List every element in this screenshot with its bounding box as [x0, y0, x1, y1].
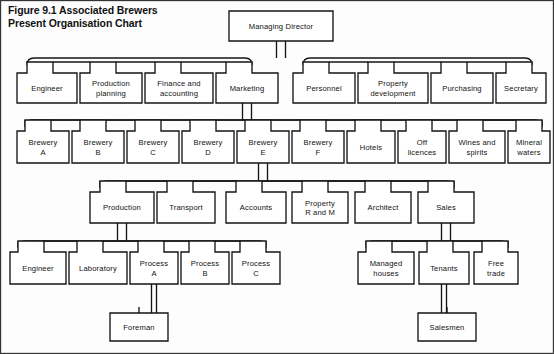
node-label: A: [151, 269, 157, 278]
node-label: B: [95, 148, 100, 157]
node-architect[interactable]: Architect: [355, 181, 411, 223]
node-engineer-1[interactable]: Engineer: [17, 62, 77, 103]
node-property-development[interactable]: Propertydevelopment: [358, 62, 428, 103]
node-label: Salesmen: [430, 323, 465, 332]
node-label: houses: [373, 269, 398, 278]
node-brewery-c[interactable]: BreweryC: [127, 120, 179, 163]
node-off-licences[interactable]: Offlicences: [398, 120, 446, 163]
node-sales[interactable]: Sales: [418, 181, 474, 223]
node-brewery-e[interactable]: BreweryE: [237, 120, 289, 163]
node-label: Brewery: [194, 138, 223, 147]
node-wines-and-spirits[interactable]: Wines andspirits: [449, 120, 505, 163]
node-mineral-waters[interactable]: Mineralwaters: [508, 120, 550, 163]
node-label: Tenants: [430, 264, 458, 273]
node-label: E: [260, 148, 265, 157]
node-label: trade: [487, 269, 505, 278]
node-label: Off: [417, 138, 428, 147]
node-label: accounting: [160, 89, 198, 98]
node-purchasing[interactable]: Purchasing: [431, 62, 493, 103]
node-laboratory[interactable]: Laboratory: [69, 241, 127, 284]
node-brewery-d[interactable]: BreweryD: [182, 120, 234, 163]
node-label: Production: [103, 203, 141, 212]
node-property-r-and-m[interactable]: PropertyR and M: [292, 181, 348, 223]
node-production[interactable]: Production: [90, 181, 154, 223]
node-label: Brewery: [304, 138, 333, 147]
node-accounts[interactable]: Accounts: [226, 181, 286, 223]
node-brewery-a[interactable]: BreweryA: [17, 120, 69, 163]
node-free-trade[interactable]: Freetrade: [474, 241, 518, 284]
node-label: Mineral: [516, 138, 542, 147]
node-label: A: [40, 148, 46, 157]
node-outline: [17, 62, 77, 103]
node-label: Accounts: [240, 203, 272, 212]
org-chart-canvas: Managing DirectorEngineerProductionplann…: [0, 0, 554, 354]
node-label: Finance and: [157, 79, 200, 88]
node-outline: [10, 241, 66, 284]
node-label: planning: [96, 89, 126, 98]
node-marketing[interactable]: Marketing: [216, 62, 278, 103]
node-label: Sales: [436, 203, 456, 212]
node-label: Laboratory: [79, 264, 117, 273]
node-label: F: [316, 148, 321, 157]
node-label: spirits: [467, 148, 488, 157]
node-hotels[interactable]: Hotels: [347, 120, 395, 163]
node-label: Free: [488, 259, 504, 268]
node-label: licences: [408, 148, 437, 157]
node-label: Process: [242, 259, 271, 268]
node-label: Process: [140, 259, 169, 268]
node-label: Wines and: [458, 138, 495, 147]
node-process-c[interactable]: ProcessC: [232, 241, 280, 284]
node-salesmen[interactable]: Salesmen: [418, 313, 476, 341]
node-label: D: [205, 148, 211, 157]
node-label: Hotels: [360, 143, 382, 152]
node-outline: [293, 62, 355, 103]
node-production-planning[interactable]: Productionplanning: [80, 62, 142, 103]
node-label: Engineer: [22, 264, 54, 273]
node-outline: [496, 62, 546, 103]
node-label: Foreman: [123, 323, 154, 332]
bus-line: [100, 181, 454, 188]
node-outline: [431, 62, 493, 103]
node-foreman[interactable]: Foreman: [110, 313, 168, 341]
node-brewery-b[interactable]: BreweryB: [72, 120, 124, 163]
node-outline: [90, 181, 154, 223]
node-label: Brewery: [84, 138, 113, 147]
node-label: Production: [92, 79, 130, 88]
node-label: development: [370, 89, 416, 98]
node-label: C: [150, 148, 156, 157]
node-label: waters: [516, 148, 540, 157]
node-label: C: [253, 269, 259, 278]
node-layer: Managing DirectorEngineerProductionplann…: [10, 11, 550, 341]
node-label: R and M: [305, 208, 335, 217]
node-outline: [216, 62, 278, 103]
node-finance-and-accounting[interactable]: Finance andaccounting: [145, 62, 213, 103]
node-outline: [418, 181, 474, 223]
node-outline: [69, 241, 127, 284]
node-label: Brewery: [249, 138, 278, 147]
node-label: Marketing: [230, 84, 265, 93]
node-label: Managing Director: [249, 22, 314, 31]
node-label: Brewery: [139, 138, 168, 147]
node-secretary[interactable]: Secretary: [496, 62, 546, 103]
node-process-b[interactable]: ProcessB: [181, 241, 229, 284]
node-label: Secretary: [504, 84, 538, 93]
node-label: Architect: [368, 203, 400, 212]
node-label: Property: [305, 199, 335, 208]
node-label: Managed: [370, 259, 403, 268]
node-label: Brewery: [29, 138, 58, 147]
node-outline: [347, 120, 395, 163]
node-brewery-f[interactable]: BreweryF: [292, 120, 344, 163]
node-transport[interactable]: Transport: [157, 181, 215, 223]
node-label: Property: [378, 79, 408, 88]
node-process-a[interactable]: ProcessA: [130, 241, 178, 284]
organisation-chart: Figure 9.1 Associated Brewers Present Or…: [0, 0, 554, 354]
node-managing-director[interactable]: Managing Director: [229, 11, 333, 41]
node-tenants[interactable]: Tenants: [419, 241, 469, 284]
node-personnel[interactable]: Personnel: [293, 62, 355, 103]
node-outline: [226, 181, 286, 223]
node-outline: [355, 181, 411, 223]
node-engineer-2[interactable]: Engineer: [10, 241, 66, 284]
node-outline: [419, 241, 469, 284]
node-outline: [157, 181, 215, 223]
node-managed-houses[interactable]: Managedhouses: [358, 241, 414, 284]
